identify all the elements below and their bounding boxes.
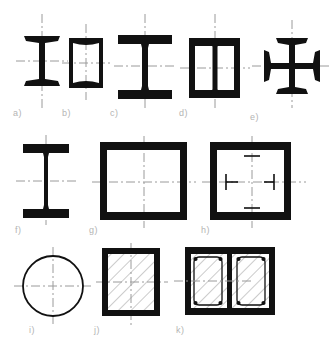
figure-h-label: h) (201, 225, 210, 235)
cruciform-section-drawing (252, 20, 332, 112)
figure-c-label: c) (110, 108, 119, 118)
figure-h: h) (202, 136, 306, 228)
figure-b: b) (62, 22, 114, 106)
concrete-filled-box-drawing (96, 243, 168, 327)
profile-outline (118, 35, 172, 99)
figure-e: e) (252, 20, 332, 112)
box-section-with-stiffeners-drawing (202, 136, 306, 228)
figure-g-label: g) (89, 225, 98, 235)
built-up-box-two-channels-drawing (180, 12, 250, 112)
figure-i: i) (14, 247, 92, 325)
figure-b-label: b) (62, 108, 71, 118)
centerlines (14, 247, 92, 325)
figure-d-label: d) (179, 108, 188, 118)
figure-i-label: i) (29, 325, 35, 335)
large-hollow-box-section-drawing (92, 136, 196, 228)
figure-e-label: e) (250, 112, 259, 122)
figure-a-label: a) (13, 108, 22, 118)
figure-j: j) (96, 243, 168, 327)
rectangular-hollow-tube-drawing (62, 22, 114, 106)
figure-c: c) (112, 12, 178, 112)
figure-k: k) (182, 243, 282, 323)
concrete-box-twin-rebar-cages-drawing (182, 243, 282, 323)
profile-outline (264, 38, 320, 94)
cross-section-plate: a) b) c) (0, 0, 335, 345)
figure-f-label: f) (15, 225, 22, 235)
figure-g: g) (92, 136, 196, 228)
wide-flange-i-beam-drawing (112, 12, 178, 112)
figure-k-label: k) (176, 325, 185, 335)
figure-j-label: j) (94, 325, 100, 335)
figure-f: f) (14, 135, 78, 227)
circular-hollow-section-drawing (14, 247, 92, 325)
figure-d: d) (180, 12, 250, 112)
tall-narrow-i-beam-drawing (14, 135, 78, 227)
